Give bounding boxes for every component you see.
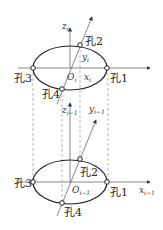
lower-hole-2-label: 孔2	[80, 166, 98, 179]
upper-hole-3-label: 孔3	[14, 72, 32, 85]
upper-hole-4-label: 孔4	[42, 88, 60, 101]
lower-frame: 孔1 孔2 孔3 孔4 zi−1 yi−1 xi−1 Oi−1	[14, 103, 155, 219]
lower-hole-3-label: 孔3	[14, 177, 32, 190]
hole-coordinate-diagram: 孔1 孔2 孔3 孔4 zi yi xi Oi 孔1 孔2 孔3 孔4 zi−1…	[0, 0, 163, 230]
upper-y-label: yi	[81, 52, 89, 63]
upper-origin-label: Oi	[67, 72, 76, 83]
upper-hole-3	[31, 66, 36, 71]
lower-z-label: zi−1	[61, 105, 78, 116]
lower-hole-1	[105, 180, 110, 185]
upper-hole-2-label: 孔2	[85, 35, 103, 48]
lower-x-label: xi−1	[139, 185, 155, 196]
upper-hole-4	[60, 87, 65, 92]
upper-hole-2	[78, 43, 83, 48]
upper-z-label: zi	[61, 21, 69, 32]
projection-lines	[33, 45, 108, 203]
lower-y-label: yi−1	[88, 104, 105, 115]
lower-hole-4-label: 孔4	[64, 206, 82, 219]
upper-frame: 孔1 孔2 孔3 孔4 zi yi xi Oi	[14, 17, 150, 104]
lower-hole-2	[78, 157, 83, 162]
lower-hole-4	[60, 201, 65, 206]
upper-x-label: xi	[84, 72, 91, 83]
upper-hole-1	[105, 66, 110, 71]
lower-origin-label: Oi−1	[72, 185, 90, 196]
lower-hole-1-label: 孔1	[110, 186, 128, 199]
upper-hole-1-label: 孔1	[110, 72, 128, 85]
